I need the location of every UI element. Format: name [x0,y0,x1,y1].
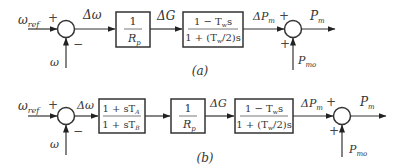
delta-g-label: ΔG [209,97,227,110]
delta-g-label: ΔG [156,9,176,23]
omega-feedback-label: ω [50,138,59,151]
gain-numerator: 1 [185,102,192,115]
turbine-denominator: 1 + (Tw/2)s [185,32,241,44]
sum2-bottom-plus-sign: + [280,37,290,51]
sum1-plus-sign: + [48,98,58,112]
turbine-denominator: 1 + (Tw/2)s [236,119,292,131]
caption-a: (a) [192,64,209,78]
pmo-label: Pmo [297,54,316,69]
turbine-numerator: 1 − Tws [194,16,232,28]
caption-b: (b) [196,151,213,165]
omega-ref-label: ωref [18,99,41,115]
gain-numerator: 1 [130,15,137,28]
delta-pm-label: ΔPm [252,10,275,25]
omega-ref-label: ωref [18,13,41,29]
omega-feedback-label: ω [50,56,59,69]
delta-pm-label: ΔPm [300,97,323,112]
sum2-bottom-plus-sign: + [329,124,339,138]
summing-junction-2 [334,108,351,125]
diagram-b: ωref + − ω Δω 1 + sTA 1 + sTB 1 Rp ΔG 1 … [18,95,386,165]
lead-lag-denominator: 1 + sTB [102,119,140,131]
block-diagrams: ωref + − ω Δω 1 Rp ΔG 1 − Tws 1 + (Tw/2)… [0,0,405,167]
pm-output-label: Pm [359,95,375,111]
delta-omega-label: Δω [82,8,102,22]
sum2-top-plus-sign: + [326,95,336,109]
summing-junction-1 [58,21,75,38]
lead-lag-numerator: 1 + sTA [102,103,140,115]
pmo-label: Pmo [348,143,367,158]
summing-junction-2 [285,21,302,38]
diagram-a: ωref + − ω Δω 1 Rp ΔG 1 − Tws 1 + (Tw/2)… [18,8,335,78]
sum1-minus-sign: − [73,124,83,138]
turbine-numerator: 1 − Tws [245,103,283,115]
sum1-minus-sign: − [73,37,83,51]
summing-junction-1 [58,108,75,125]
pm-output-label: Pm [309,9,325,25]
sum2-top-plus-sign: + [279,9,289,23]
delta-omega-label: Δω [76,99,94,112]
sum1-plus-sign: + [48,11,58,25]
